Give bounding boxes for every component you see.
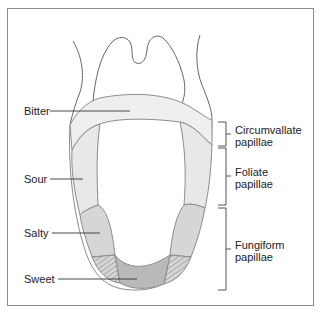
label-sour: Sour: [24, 173, 47, 185]
tongue-diagram: [0, 0, 320, 318]
label-sweet: Sweet: [24, 273, 55, 285]
label-line: Fungiform: [235, 239, 285, 251]
label-line: Foliate: [235, 166, 273, 178]
label-salty: Salty: [24, 227, 48, 239]
label-line: papillae: [235, 136, 302, 148]
papillae-brackets: [218, 122, 231, 290]
label-bitter: Bitter: [24, 105, 50, 117]
label-line: papillae: [235, 251, 285, 263]
label-circumvallate-papillae: Circumvallate papillae: [235, 124, 302, 148]
label-foliate-papillae: Foliate papillae: [235, 166, 273, 190]
label-line: papillae: [235, 178, 273, 190]
label-fungiform-papillae: Fungiform papillae: [235, 239, 285, 263]
label-line: Circumvallate: [235, 124, 302, 136]
